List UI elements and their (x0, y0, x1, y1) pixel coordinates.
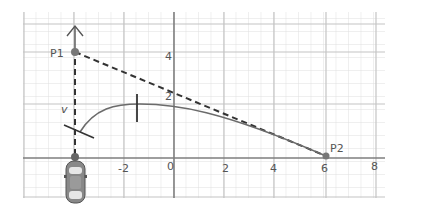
diagram-canvas: -2 0 2 4 6 8 2 4 P1 P2 v (0, 0, 427, 223)
velocity-label: v (61, 103, 68, 116)
point-p1 (71, 48, 79, 56)
point-p2 (323, 153, 330, 160)
car-icon (64, 161, 87, 203)
x-tick-label: 0 (167, 160, 174, 173)
x-tick-label: 8 (371, 160, 378, 173)
point-label-p2: P2 (330, 142, 344, 155)
car-origin-point (71, 153, 79, 161)
y-tick-label: 4 (165, 50, 172, 63)
point-label-p1: P1 (50, 47, 64, 60)
x-tick-label: 4 (270, 162, 277, 175)
x-tick-label: 2 (222, 162, 229, 175)
x-tick-label: 6 (321, 162, 328, 175)
x-tick-label: -2 (118, 162, 129, 175)
